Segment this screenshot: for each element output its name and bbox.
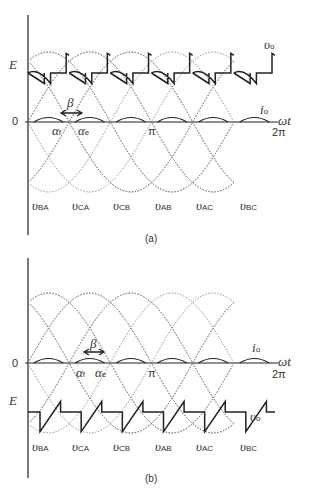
phase-label: υAC (196, 200, 213, 213)
phase-label: υBA (32, 441, 49, 454)
label-pi-a: π (148, 126, 156, 137)
phase-label: υCB (113, 441, 130, 454)
label-alpha-e-a: αe (78, 125, 89, 138)
label-pi-b: π (148, 368, 156, 379)
phase-label: υCA (72, 441, 89, 454)
label-zero-a: 0 (12, 116, 18, 127)
label-alpha-e-b: αe (95, 367, 106, 380)
phase-label: υAC (196, 441, 213, 454)
output-voltage-waveform (28, 53, 275, 83)
caption-b: (b) (145, 473, 157, 484)
label-2pi-b: 2π (272, 369, 286, 380)
label-beta-b: β (90, 338, 96, 349)
label-vo-a: υo (264, 39, 274, 52)
label-alpha-f-b: αf (76, 367, 85, 380)
label-alpha-f-a: αf (52, 125, 61, 138)
label-omega-t-b: ωt (278, 356, 291, 367)
phase-label: υBC (240, 441, 257, 454)
output-voltage-waveform (28, 402, 275, 432)
label-zero-b: 0 (12, 358, 18, 369)
label-E-a: E (9, 59, 17, 70)
label-2pi-a: 2π (272, 127, 286, 138)
beta-arrow-a (61, 110, 82, 116)
waveform-diagram (0, 0, 309, 496)
phase-voltage-curve (28, 302, 234, 433)
label-io-a: io (260, 104, 268, 117)
label-vo-b: υo (250, 411, 260, 424)
label-E-b: E (9, 395, 17, 406)
phase-label: υCA (72, 200, 89, 213)
label-omega-t-a: ωt (278, 115, 291, 126)
caption-a: (a) (145, 233, 157, 244)
phase-label: υAB (155, 441, 172, 454)
phase-label: υBC (240, 200, 257, 213)
phase-label: υCB (113, 200, 130, 213)
phase-label: υAB (155, 200, 172, 213)
phase-voltage-curve (28, 302, 234, 433)
phase-label: υBA (32, 200, 49, 213)
label-io-b: io (252, 342, 260, 355)
label-beta-a: β (67, 97, 73, 108)
